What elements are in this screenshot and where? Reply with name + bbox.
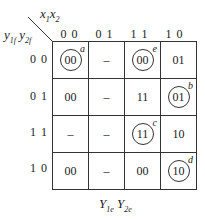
grid-row: 00 – 11 01b (53, 79, 197, 116)
cell: 01 (161, 42, 197, 79)
state-tag: d (188, 154, 193, 165)
cell: – (89, 79, 125, 116)
grid-row: 00 – 00 10d (53, 153, 197, 190)
row-header: 0 1 (26, 89, 52, 104)
row-variables-label: y1f y2f (4, 27, 31, 45)
state-tag: c (153, 117, 157, 128)
cell: 00 (53, 79, 89, 116)
cell-stable: 01b (161, 79, 197, 116)
stable-state-circle: 10 (168, 160, 190, 182)
cell: – (89, 42, 125, 79)
column-header: 1 1 (122, 27, 157, 42)
cell: – (53, 116, 89, 153)
cell: – (89, 153, 125, 190)
stable-state-circle: 00 (60, 49, 82, 71)
cell-stable: 11c (125, 116, 161, 153)
row-header: 1 1 (26, 125, 52, 140)
cell: 10 (161, 116, 197, 153)
cell-stable: 00e (125, 42, 161, 79)
column-variables-label: x1x2 (40, 6, 60, 24)
cell: – (89, 116, 125, 153)
karnaugh-map-diagram: x1x2 y1f y2f 0 0 0 1 1 1 1 0 0 0 0 1 1 1… (0, 0, 205, 219)
row-header: 1 0 (26, 161, 52, 176)
output-variables-label: Y1e Y2e (99, 196, 132, 214)
karnaugh-grid: 00a – 00e 01 00 – 11 01b – – 11c 10 00 –… (52, 41, 197, 190)
stable-state-circle: 11 (132, 123, 154, 145)
column-header: 0 0 (52, 27, 87, 42)
cell-stable: 10d (161, 153, 197, 190)
stable-state-circle: 01 (168, 86, 190, 108)
cell: 00 (125, 153, 161, 190)
state-tag: b (188, 80, 193, 91)
grid-row: – – 11c 10 (53, 116, 197, 153)
state-tag: a (80, 43, 85, 54)
state-tag: e (153, 43, 157, 54)
cell-stable: 00a (53, 42, 89, 79)
row-header: 0 0 (26, 52, 52, 67)
column-header: 0 1 (87, 27, 122, 42)
cell: 11 (125, 79, 161, 116)
grid-row: 00a – 00e 01 (53, 42, 197, 79)
column-header: 1 0 (157, 27, 192, 42)
stable-state-circle: 00 (132, 49, 154, 71)
cell: 00 (53, 153, 89, 190)
